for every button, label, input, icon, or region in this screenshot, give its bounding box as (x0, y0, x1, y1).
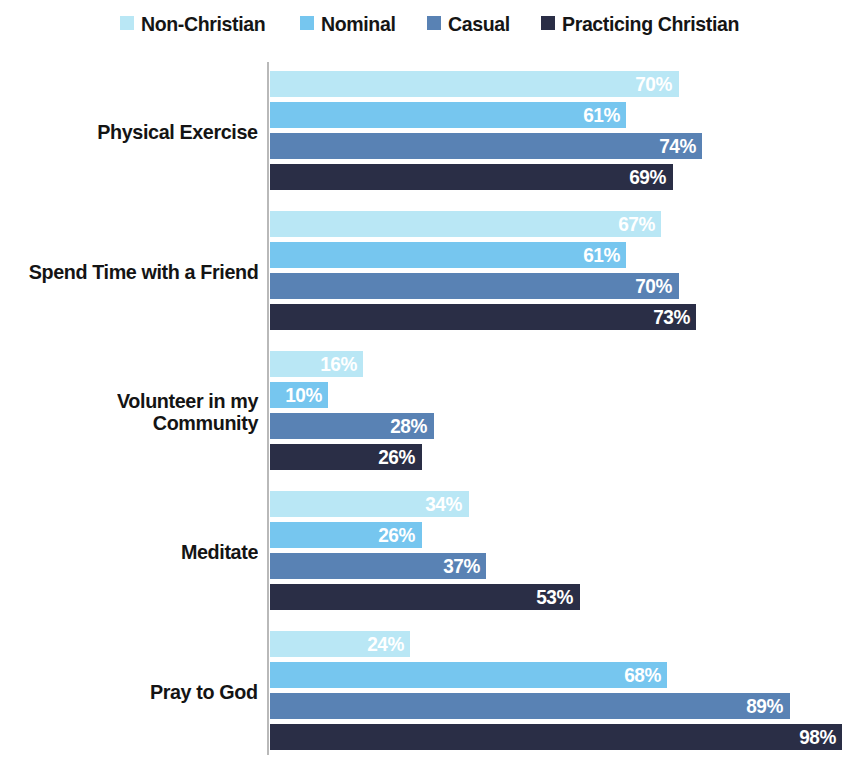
legend-swatch-icon (541, 16, 555, 30)
bar-stack: 34%26%37%53% (270, 491, 854, 610)
bar[interactable]: 70% (270, 71, 679, 97)
category-label-text: Spend Time with a Friend (28, 261, 258, 283)
bar-row: 70% (270, 273, 854, 299)
legend-item[interactable]: Practicing Christian (541, 13, 752, 34)
bar-row: 53% (270, 584, 854, 610)
bar-row: 74% (270, 133, 854, 159)
bar-value-label: 61% (583, 105, 626, 125)
bar-value-label: 98% (799, 727, 842, 747)
bar-value-label: 34% (425, 494, 468, 514)
bar-value-label: 73% (653, 307, 696, 327)
bar-stack: 70%61%74%69% (270, 71, 854, 190)
bar-stack: 67%61%70%73% (270, 211, 854, 330)
bar-row: 70% (270, 71, 854, 97)
bar-stack: 16%10%28%26% (270, 351, 854, 470)
bar-row: 98% (270, 724, 854, 750)
category-label: Meditate (0, 482, 258, 622)
bar-row: 89% (270, 693, 854, 719)
bar-chart: Non-ChristianNominalCasualPracticing Chr… (0, 0, 854, 759)
bar[interactable]: 26% (270, 444, 422, 470)
bar-value-label: 24% (367, 634, 410, 654)
bar-row: 37% (270, 553, 854, 579)
bar-row: 26% (270, 522, 854, 548)
bar[interactable]: 70% (270, 273, 679, 299)
bar-value-label: 26% (379, 447, 422, 467)
bar-value-label: 67% (618, 214, 661, 234)
bar-value-label: 89% (746, 696, 789, 716)
legend-swatch-icon (120, 16, 134, 30)
bar[interactable]: 61% (270, 242, 626, 268)
bar-value-label: 69% (630, 167, 673, 187)
bar-stack: 24%68%89%98% (270, 631, 854, 750)
bar[interactable]: 10% (270, 382, 328, 408)
bar-value-label: 53% (536, 587, 579, 607)
bar-value-label: 37% (443, 556, 486, 576)
bar-group: Spend Time with a Friend67%61%70%73% (0, 202, 854, 342)
bar[interactable]: 34% (270, 491, 469, 517)
bar[interactable]: 67% (270, 211, 661, 237)
category-label: Physical Exercise (0, 62, 258, 202)
legend-item[interactable]: Casual (427, 13, 514, 34)
bar-group-list: Physical Exercise70%61%74%69%Spend Time … (0, 62, 854, 759)
bar-group: Volunteer in my Community16%10%28%26% (0, 342, 854, 482)
bar-group: Physical Exercise70%61%74%69% (0, 62, 854, 202)
bar[interactable]: 53% (270, 584, 580, 610)
legend-item-label: Casual (448, 13, 510, 34)
category-label-text: Pray to God (150, 681, 258, 703)
bar-row: 10% (270, 382, 854, 408)
bar-value-label: 26% (379, 525, 422, 545)
bar[interactable]: 61% (270, 102, 626, 128)
bar-value-label: 28% (390, 416, 433, 436)
bar[interactable]: 89% (270, 693, 790, 719)
bar[interactable]: 37% (270, 553, 486, 579)
bar-value-label: 68% (624, 665, 667, 685)
bar[interactable]: 74% (270, 133, 702, 159)
bar-value-label: 10% (285, 385, 328, 405)
category-label: Volunteer in my Community (0, 342, 258, 482)
bar-value-label: 70% (636, 74, 679, 94)
bar[interactable]: 73% (270, 304, 696, 330)
bar-row: 69% (270, 164, 854, 190)
bar-value-label: 16% (320, 354, 363, 374)
legend-item-label: Non-Christian (141, 13, 265, 34)
bar-value-label: 74% (659, 136, 702, 156)
bar[interactable]: 68% (270, 662, 667, 688)
category-label: Spend Time with a Friend (0, 202, 258, 342)
category-label-text: Meditate (181, 541, 258, 563)
bar-row: 61% (270, 242, 854, 268)
category-label-text: Physical Exercise (98, 121, 258, 143)
bar-value-label: 61% (583, 245, 626, 265)
bar[interactable]: 16% (270, 351, 363, 377)
bar-value-label: 70% (636, 276, 679, 296)
legend-item-label: Practicing Christian (562, 13, 739, 34)
bar-row: 67% (270, 211, 854, 237)
bar-row: 26% (270, 444, 854, 470)
chart-legend: Non-ChristianNominalCasualPracticing Chr… (0, 6, 854, 40)
legend-item-label: Nominal (321, 13, 395, 34)
legend-item[interactable]: Non-Christian (120, 13, 275, 34)
bar-row: 16% (270, 351, 854, 377)
bar[interactable]: 98% (270, 724, 842, 750)
bar[interactable]: 26% (270, 522, 422, 548)
bar-row: 61% (270, 102, 854, 128)
bar-group: Meditate34%26%37%53% (0, 482, 854, 622)
legend-swatch-icon (427, 16, 441, 30)
category-label: Pray to God (0, 622, 258, 759)
bar[interactable]: 28% (270, 413, 434, 439)
category-label-text: Volunteer in my Community (15, 390, 258, 434)
legend-swatch-icon (300, 16, 314, 30)
legend-item[interactable]: Nominal (300, 13, 401, 34)
bar-row: 68% (270, 662, 854, 688)
bar-row: 24% (270, 631, 854, 657)
bar[interactable]: 24% (270, 631, 410, 657)
bar-group: Pray to God24%68%89%98% (0, 622, 854, 759)
bar-row: 34% (270, 491, 854, 517)
bar-row: 28% (270, 413, 854, 439)
plot-area: Physical Exercise70%61%74%69%Spend Time … (0, 46, 854, 759)
bar-row: 73% (270, 304, 854, 330)
bar[interactable]: 69% (270, 164, 673, 190)
